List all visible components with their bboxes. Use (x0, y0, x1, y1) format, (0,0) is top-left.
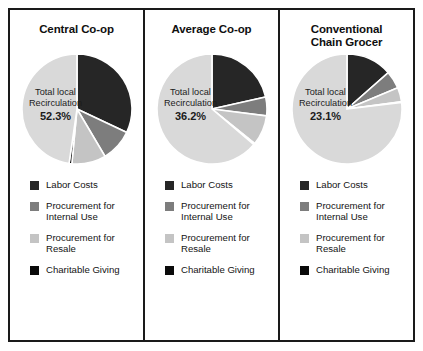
legend-item: Procurement for Internal Use (165, 200, 278, 223)
legend-item-label: Procurement for Resale (181, 232, 250, 255)
legend-item: Charitable Giving (30, 264, 143, 276)
pie-chart-average-coop: Total local Recirculation 36.2% (156, 53, 268, 165)
legend-swatch-procurement-internal (165, 202, 174, 211)
pie-svg (291, 53, 403, 165)
pie-chart-central-coop: Total local Recirculation 52.3% (21, 53, 133, 165)
legend-swatch-procurement-internal (30, 202, 39, 211)
legend-item: Charitable Giving (300, 264, 413, 276)
legend-item-label: Labor Costs (46, 179, 98, 191)
panel-title: Average Co-op (171, 23, 251, 51)
legend-swatch-procurement-resale (300, 234, 309, 243)
legend-item: Labor Costs (165, 179, 278, 191)
legend-swatch-procurement-resale (30, 234, 39, 243)
legend-swatch-charitable-giving (165, 266, 174, 275)
chart-panel-conventional-chain-grocer: Conventional Chain Grocer Total local Re… (278, 10, 413, 340)
legend-swatch-procurement-internal (300, 202, 309, 211)
legend-item-label: Procurement for Internal Use (46, 200, 115, 223)
legend: Labor Costs Procurement for Internal Use… (145, 179, 278, 285)
legend-item-label: Procurement for Resale (46, 232, 115, 255)
legend-item-label: Charitable Giving (316, 264, 390, 276)
panel-title: Conventional Chain Grocer (311, 23, 383, 51)
legend-swatch-labor-costs (300, 181, 309, 190)
legend-item-label: Charitable Giving (46, 264, 120, 276)
legend-item: Labor Costs (300, 179, 413, 191)
chart-panel-average-coop: Average Co-op Total local Recirculation … (143, 10, 278, 340)
chart-panel-central-coop: Central Co-op Total local Recirculation … (10, 10, 143, 340)
legend-item-label: Charitable Giving (181, 264, 255, 276)
legend: Labor Costs Procurement for Internal Use… (10, 179, 143, 285)
legend-item: Procurement for Internal Use (300, 200, 413, 223)
legend-item: Procurement for Resale (300, 232, 413, 255)
legend-item-label: Labor Costs (181, 179, 233, 191)
legend: Labor Costs Procurement for Internal Use… (280, 179, 413, 285)
pie-chart-figure: Central Co-op Total local Recirculation … (8, 8, 415, 342)
pie-slice-remainder (21, 54, 76, 163)
legend-swatch-procurement-resale (165, 234, 174, 243)
pie-chart-conventional-chain-grocer: Total local Recirculation 23.1% (291, 53, 403, 165)
legend-item: Procurement for Internal Use (30, 200, 143, 223)
legend-item-label: Procurement for Internal Use (316, 200, 385, 223)
legend-swatch-charitable-giving (30, 266, 39, 275)
legend-item: Procurement for Resale (30, 232, 143, 255)
legend-item: Charitable Giving (165, 264, 278, 276)
legend-item-label: Labor Costs (316, 179, 368, 191)
legend-swatch-labor-costs (165, 181, 174, 190)
pie-svg (156, 53, 268, 165)
pie-svg (21, 53, 133, 165)
legend-item: Labor Costs (30, 179, 143, 191)
legend-item-label: Procurement for Resale (316, 232, 385, 255)
legend-item-label: Procurement for Internal Use (181, 200, 250, 223)
panel-title: Central Co-op (39, 23, 114, 51)
legend-swatch-labor-costs (30, 181, 39, 190)
legend-swatch-charitable-giving (300, 266, 309, 275)
legend-item: Procurement for Resale (165, 232, 278, 255)
